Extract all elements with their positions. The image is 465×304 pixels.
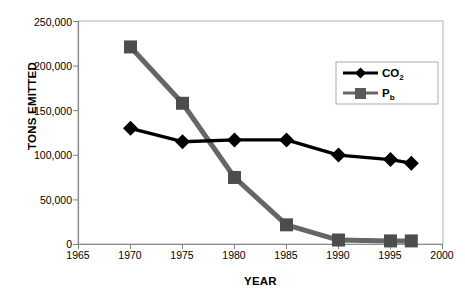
square-icon xyxy=(355,88,366,99)
data-point-square xyxy=(384,234,397,247)
y-axis-ticks xyxy=(73,22,78,245)
data-point-square xyxy=(405,234,418,247)
legend[interactable]: CO 2 P b xyxy=(336,62,438,104)
legend-label-pb-subscript: b xyxy=(390,93,395,102)
plot-area: CO 2 P b xyxy=(0,0,465,304)
data-point-square xyxy=(176,97,189,110)
data-point-square xyxy=(228,171,241,184)
data-point-square xyxy=(124,40,137,53)
legend-label-co2-subscript: 2 xyxy=(399,73,404,82)
data-point-square xyxy=(332,234,345,247)
chart-figure: TONS EMITTED YEAR 250,000 200,000 150,00… xyxy=(0,0,465,304)
data-point-square xyxy=(280,218,293,231)
legend-label-co2: CO xyxy=(382,67,399,79)
